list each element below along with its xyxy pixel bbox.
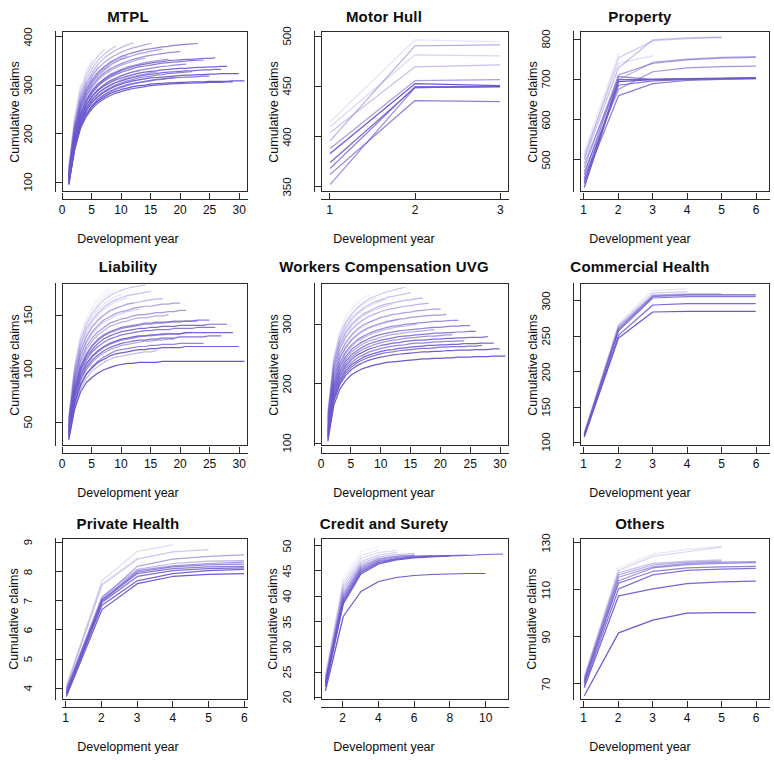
data-lines [322,284,508,445]
x-axis-label: Development year [0,232,256,246]
chart-panel: Workers Compensation UVG1002003000510152… [256,250,512,507]
series-line [584,78,755,187]
plot-frame [321,283,509,446]
x-tick [500,193,501,200]
y-tick [573,636,580,637]
chart-panel: Property500600700800123456Cumulative cla… [512,0,768,250]
x-tick [618,193,619,200]
y-tick [55,571,62,572]
plot-area: 50100150051015202530 [62,283,248,446]
chart-panel: Credit and Surety20253035404550246810Cum… [256,507,512,760]
y-axis-label: Cumulative claims [265,263,281,466]
x-tick [721,193,722,200]
x-tick-label: 6 [736,711,774,725]
y-axis-line [573,31,574,192]
x-tick-label: 4 [358,711,398,725]
x-axis-label: Development year [256,740,512,754]
y-axis-line [573,283,574,446]
x-tick [583,193,584,200]
x-tick [239,193,240,200]
y-axis-label: Cumulative claims [6,11,22,212]
y-axis-line [314,31,315,192]
y-tick [573,371,580,372]
y-tick [314,86,321,87]
chart-panel: Others7090110130123456Cumulative claimsD… [512,507,768,760]
x-tick [342,701,343,708]
y-tick [55,688,62,689]
y-axis-label: Cumulative claims [6,518,22,720]
series-line [584,311,755,436]
plot-frame [62,538,248,700]
y-tick [55,629,62,630]
x-tick [378,701,379,708]
x-tick-label: 30 [219,457,259,471]
y-tick [573,542,580,543]
x-tick-label: 6 [394,711,434,725]
series-line [330,65,499,133]
y-axis-line [573,538,574,700]
y-tick [55,422,62,423]
series-line [69,82,233,184]
data-lines [63,539,247,699]
series-line [69,361,244,439]
x-tick [244,701,245,708]
x-tick [180,193,181,200]
chart-panel: Motor Hull350400450500123Cumulative clai… [256,0,512,250]
series-line [584,562,755,681]
x-tick-label: 6 [736,203,774,217]
x-axis-line [321,453,509,454]
x-tick [756,701,757,708]
panel-title: Liability [0,258,256,276]
y-tick [573,336,580,337]
series-line [328,356,505,441]
x-tick [687,193,688,200]
x-tick-label: 8 [430,711,470,725]
x-tick [756,193,757,200]
data-lines [322,539,508,699]
y-axis-label: Cumulative claims [6,263,22,466]
x-tick [583,447,584,454]
x-tick [209,447,210,454]
x-axis-line [321,707,509,708]
panel-title: Workers Compensation UVG [256,258,512,276]
x-tick [208,701,209,708]
series-line [326,555,415,681]
y-axis-label: Cumulative claims [524,11,540,212]
panel-title: MTPL [0,8,256,26]
plot-frame [321,538,509,700]
chart-panel: Commercial Health100150200250300123456Cu… [512,250,768,507]
x-tick [721,701,722,708]
y-tick [314,136,321,137]
series-line [330,45,499,140]
x-tick [583,701,584,708]
y-tick [55,542,62,543]
x-tick [172,701,173,708]
x-axis-line [62,199,248,200]
x-axis-label: Development year [0,740,256,754]
x-tick-label: 30 [219,203,259,217]
y-tick [573,589,580,590]
series-line [584,79,755,181]
plot-area: 500600700800123456 [580,31,770,192]
panel-title: Private Health [0,515,256,533]
x-tick [91,193,92,200]
data-lines [581,539,769,699]
y-tick [55,315,62,316]
series-line [584,57,755,167]
series-line [584,78,755,183]
x-tick [618,447,619,454]
x-tick [687,447,688,454]
y-tick [314,621,321,622]
plot-area: 100200300400051015202530 [62,31,248,192]
plot-area: 100200300051015202530 [321,283,509,446]
y-tick [314,545,321,546]
y-tick [55,133,62,134]
chart-panel: Liability50100150051015202530Cumulative … [0,250,256,507]
y-axis-label: Cumulative claims [265,518,281,720]
chart-panel: MTPL100200300400051015202530Cumulative c… [0,0,256,250]
x-tick [62,193,63,200]
x-tick [756,447,757,454]
x-axis-line [62,707,248,708]
plot-area: 100150200250300123456 [580,283,770,446]
x-tick [329,193,330,200]
